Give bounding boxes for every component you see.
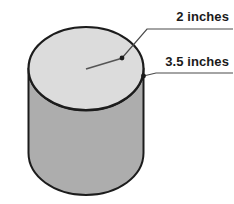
label-radius-2-inches: 2 inches [176, 9, 229, 24]
label-height-3-5-inches: 3.5 inches [165, 54, 229, 69]
cylinder-figure-svg [0, 0, 234, 204]
cylinder-diagram: 2 inches 3.5 inches [0, 0, 234, 204]
leader-dot-top-diameter [120, 56, 125, 61]
leader-line-height [144, 73, 234, 76]
leader-dot-height [141, 74, 146, 79]
